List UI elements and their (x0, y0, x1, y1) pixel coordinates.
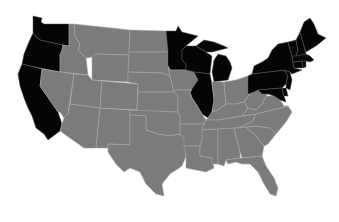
state-kansas[interactable] (137, 92, 178, 112)
state-north-dakota[interactable] (129, 30, 168, 52)
state-new-mexico[interactable] (96, 108, 130, 148)
state-rhode-island[interactable] (302, 61, 306, 68)
state-colorado[interactable] (100, 81, 138, 110)
state-florida[interactable] (226, 156, 278, 196)
us-map (0, 0, 339, 222)
state-montana[interactable] (74, 24, 130, 58)
state-wyoming[interactable] (92, 54, 129, 82)
us-map-svg (0, 0, 339, 222)
